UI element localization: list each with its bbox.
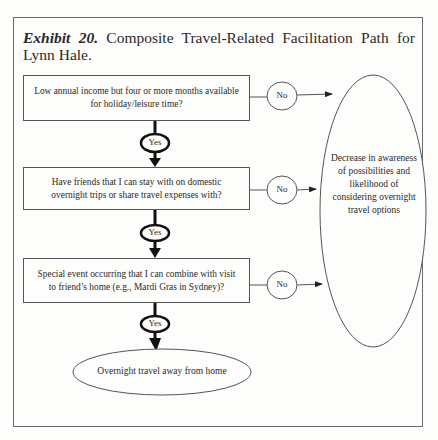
no-outcome-text: Decrease in awareness of possibilities a…: [330, 152, 418, 217]
no-label-3: No: [268, 279, 296, 290]
question-box-3: Special event occurring that I can combi…: [23, 258, 250, 303]
question-box-2: Have friends that I can stay with on dom…: [23, 167, 250, 210]
question-1-text: Low annual income but four or more month…: [34, 85, 239, 111]
question-3-text: Special event occurring that I can combi…: [34, 268, 239, 294]
yes-outcome-text: Overnight travel away from home: [80, 366, 244, 377]
yes-label-2: Yes: [141, 227, 169, 238]
question-2-text: Have friends that I can stay with on dom…: [34, 176, 239, 202]
no-label-2: No: [268, 184, 296, 195]
yes-label-1: Yes: [141, 137, 169, 148]
no-label-1: No: [268, 90, 296, 101]
yes-label-3: Yes: [141, 318, 169, 329]
question-box-1: Low annual income but four or more month…: [23, 75, 250, 121]
